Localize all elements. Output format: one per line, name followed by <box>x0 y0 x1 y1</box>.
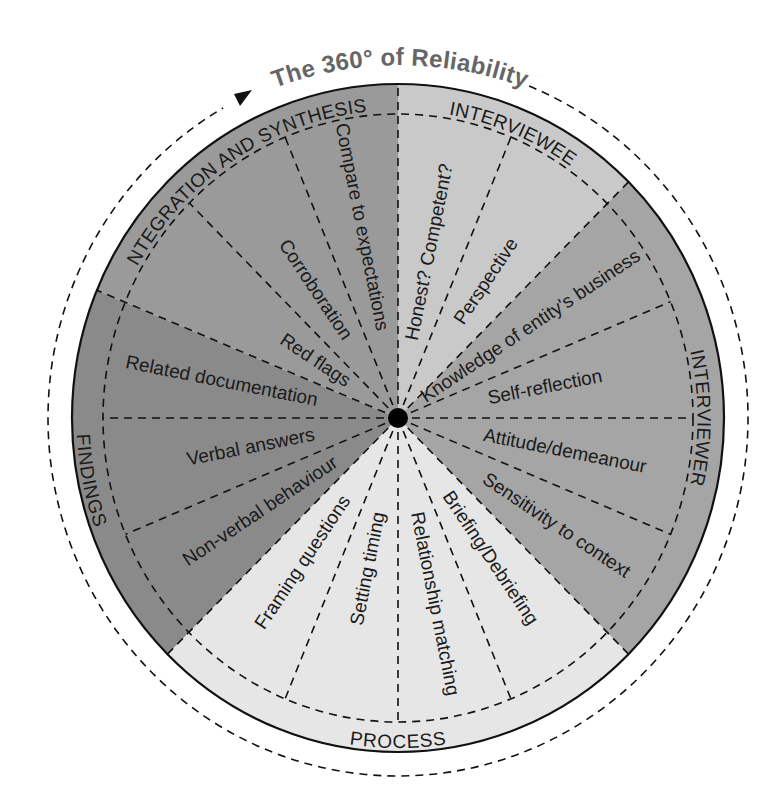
arrowhead-icon <box>234 90 252 106</box>
section-label: PROCESS <box>349 727 448 752</box>
center-hub-dot <box>388 408 408 428</box>
reliability-wheel-diagram: The 360° of Reliability INTERVIEWEEINTER… <box>0 0 784 802</box>
